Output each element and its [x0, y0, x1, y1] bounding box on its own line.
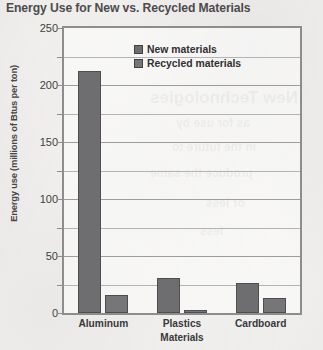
y-tick-label: 100: [24, 193, 58, 205]
bar-plastics-new: [157, 278, 180, 313]
bar-chart: Energy Use for New vs. Recycled Material…: [0, 0, 323, 350]
y-tick-label: 0: [24, 307, 58, 319]
bar-cardboard-recycled: [263, 298, 286, 313]
legend-item: New materials: [134, 43, 241, 56]
y-axis-tick-labels: 050100150200250: [20, 26, 58, 315]
bar-aluminum-recycled: [105, 295, 128, 313]
y-tick-label: 250: [24, 22, 58, 34]
legend-label: New materials: [147, 44, 217, 55]
legend-item: Recycled materials: [134, 57, 241, 70]
legend-swatch-recycled-icon: [134, 59, 143, 68]
legend-swatch-new-icon: [134, 45, 143, 54]
y-tick-label: 50: [24, 250, 58, 262]
legend-label: Recycled materials: [147, 58, 241, 69]
x-tick-label-plastics: Plastics: [163, 318, 202, 329]
bar-plastics-recycled: [184, 310, 207, 313]
x-tick-label-cardboard: Cardboard: [235, 318, 287, 329]
chart-title: Energy Use for New vs. Recycled Material…: [6, 1, 251, 15]
y-tick-label: 200: [24, 79, 58, 91]
chart-legend: New materials Recycled materials: [134, 43, 241, 71]
bar-cardboard-new: [236, 283, 259, 313]
y-tick-label: 150: [24, 136, 58, 148]
x-axis-title: Materials: [62, 332, 302, 343]
y-axis-title: Energy use (millions of Btus per ton): [8, 19, 19, 269]
x-tick-label-aluminum: Aluminum: [78, 318, 128, 329]
bar-aluminum-new: [78, 71, 101, 313]
